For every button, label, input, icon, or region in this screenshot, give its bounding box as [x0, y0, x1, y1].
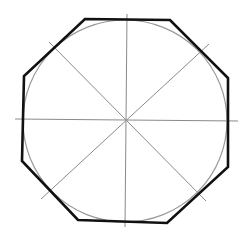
- diagram-canvas: [0, 0, 246, 242]
- octagon-diagram: [0, 0, 246, 242]
- construction-line-diagonal-1: [49, 42, 206, 201]
